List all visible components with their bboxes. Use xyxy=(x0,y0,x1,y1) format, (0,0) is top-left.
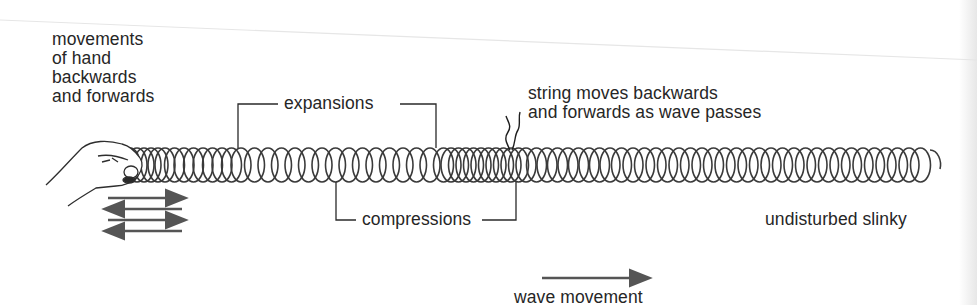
undisturbed-slinky-label: undisturbed slinky xyxy=(765,210,907,229)
wave-movement-label: wave movement xyxy=(514,288,643,305)
page-shadow xyxy=(959,0,977,305)
hand-icon xyxy=(46,141,142,206)
expansions-label: expansions xyxy=(284,94,374,113)
slinky-wave-diagram: movements of hand backwards and forwards… xyxy=(0,0,977,305)
compressions-label: compressions xyxy=(362,210,471,229)
hand-movement-label: movements of hand backwards and forwards xyxy=(52,30,154,106)
string-marker xyxy=(506,112,520,150)
slinky-coil xyxy=(120,148,941,182)
string-note-label: string moves backwards and forwards as w… xyxy=(528,84,761,122)
hand-arrows xyxy=(106,198,184,231)
